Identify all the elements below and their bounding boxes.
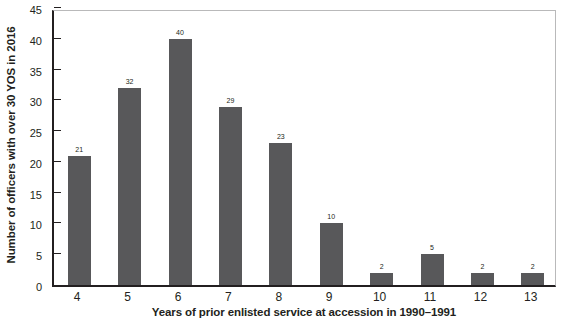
bar-value-label: 2: [362, 263, 402, 271]
plot-area: 2132402923102522: [52, 10, 556, 287]
y-axis-tick: [54, 253, 61, 254]
bar-value-label: 32: [110, 78, 150, 86]
x-axis-tick-label: 10: [360, 290, 400, 304]
y-axis-tick: [54, 161, 61, 162]
bar: [421, 254, 444, 285]
bar-chart-figure: Number of officers with over 30 YOS in 2…: [0, 0, 564, 327]
bar: [219, 107, 242, 286]
x-axis-tick-label: 9: [309, 290, 349, 304]
bar: [269, 143, 292, 285]
bar-value-label: 21: [59, 146, 99, 154]
x-axis-title: Years of prior enlisted service at acces…: [52, 306, 556, 318]
bar-value-label: 2: [462, 263, 502, 271]
bar: [320, 223, 343, 285]
y-axis-tick: [54, 69, 61, 70]
x-axis-tick-label: 5: [108, 290, 148, 304]
bar: [521, 273, 544, 285]
x-axis-tick-label: 12: [460, 290, 500, 304]
bar-value-label: 2: [513, 263, 553, 271]
bar: [169, 39, 192, 285]
bar-value-label: 29: [210, 97, 250, 105]
y-axis-tick: [54, 38, 61, 39]
bar: [118, 88, 141, 285]
x-axis-tick-label: 13: [511, 290, 551, 304]
y-axis-tick: [54, 7, 61, 8]
y-axis-tick: [54, 222, 61, 223]
bar-value-label: 5: [412, 244, 452, 252]
x-axis-tick-label: 8: [259, 290, 299, 304]
y-axis-tick: [54, 99, 61, 100]
plot-inner: 2132402923102522: [54, 11, 555, 285]
bar: [471, 273, 494, 285]
bar: [370, 273, 393, 285]
bar-value-label: 40: [160, 29, 200, 37]
bar-value-label: 10: [311, 213, 351, 221]
bar-value-label: 23: [261, 133, 301, 141]
x-axis-tick-label: 4: [57, 290, 97, 304]
y-axis-tick: [54, 130, 61, 131]
y-axis-title: Number of officers with over 30 YOS in 2…: [2, 0, 20, 295]
bar: [68, 156, 91, 285]
x-axis-tick-label: 11: [410, 290, 450, 304]
y-axis-tick: [54, 192, 61, 193]
x-axis-tick-label: 7: [208, 290, 248, 304]
x-axis-tick-label: 6: [158, 290, 198, 304]
